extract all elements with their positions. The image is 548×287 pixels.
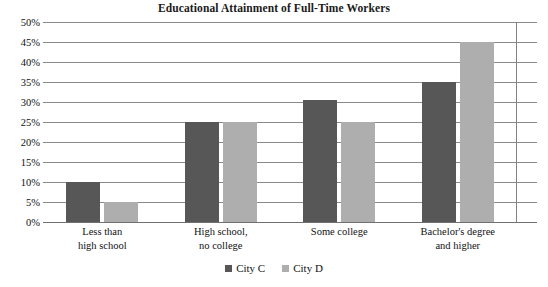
chart-container: Educational Attainment of Full-Time Work… <box>0 0 548 287</box>
bar-city-c[interactable] <box>185 122 219 222</box>
category-label-line: high school <box>43 239 162 253</box>
bar-city-c[interactable] <box>66 182 100 222</box>
chart-title: Educational Attainment of Full-Time Work… <box>0 2 548 14</box>
y-axis-tick-label: 10% <box>2 177 40 188</box>
bar-group <box>162 22 281 222</box>
category-label-line: Some college <box>280 225 399 239</box>
x-axis-category-label: Bachelor's degreeand higher <box>399 225 518 252</box>
legend-item-city-c[interactable]: City C <box>225 262 265 274</box>
category-label-line: no college <box>162 239 281 253</box>
bar-city-c[interactable] <box>303 100 337 222</box>
x-axis-category-label: Some college <box>280 225 399 239</box>
bars-layer <box>43 22 517 222</box>
category-label-line: Less than <box>43 225 162 239</box>
legend-label: City D <box>293 262 323 274</box>
bar-group <box>43 22 162 222</box>
x-axis-category-label: Less thanhigh school <box>43 225 162 252</box>
bar-group <box>280 22 399 222</box>
bar-city-c[interactable] <box>422 82 456 222</box>
legend-swatch-icon <box>225 265 232 272</box>
y-axis-tick-label: 15% <box>2 157 40 168</box>
y-axis-tick-label: 0% <box>2 217 40 228</box>
category-label-line: and higher <box>399 239 518 253</box>
y-axis: 50%45%40%35%30%25%20%15%10%5%0% <box>0 22 40 222</box>
y-axis-tick-label: 40% <box>2 57 40 68</box>
x-axis-baseline <box>43 222 537 223</box>
legend-swatch-icon <box>282 265 289 272</box>
bar-city-d[interactable] <box>460 42 494 222</box>
x-axis-category-label: High school,no college <box>162 225 281 252</box>
bar-group <box>399 22 518 222</box>
bar-city-d[interactable] <box>223 122 257 222</box>
y-axis-tick-label: 35% <box>2 77 40 88</box>
y-axis-tick-label: 20% <box>2 137 40 148</box>
chart-legend: City CCity D <box>0 262 548 274</box>
bar-city-d[interactable] <box>104 202 138 222</box>
bar-city-d[interactable] <box>341 122 375 222</box>
x-axis: Less thanhigh schoolHigh school,no colle… <box>43 225 517 259</box>
y-axis-tick-label: 45% <box>2 37 40 48</box>
legend-label: City C <box>236 262 265 274</box>
y-axis-tick-label: 5% <box>2 197 40 208</box>
y-axis-tick-label: 30% <box>2 97 40 108</box>
category-label-line: High school, <box>162 225 281 239</box>
y-axis-tick-label: 50% <box>2 17 40 28</box>
y-axis-tick-label: 25% <box>2 117 40 128</box>
legend-item-city-d[interactable]: City D <box>282 262 323 274</box>
category-label-line: Bachelor's degree <box>399 225 518 239</box>
